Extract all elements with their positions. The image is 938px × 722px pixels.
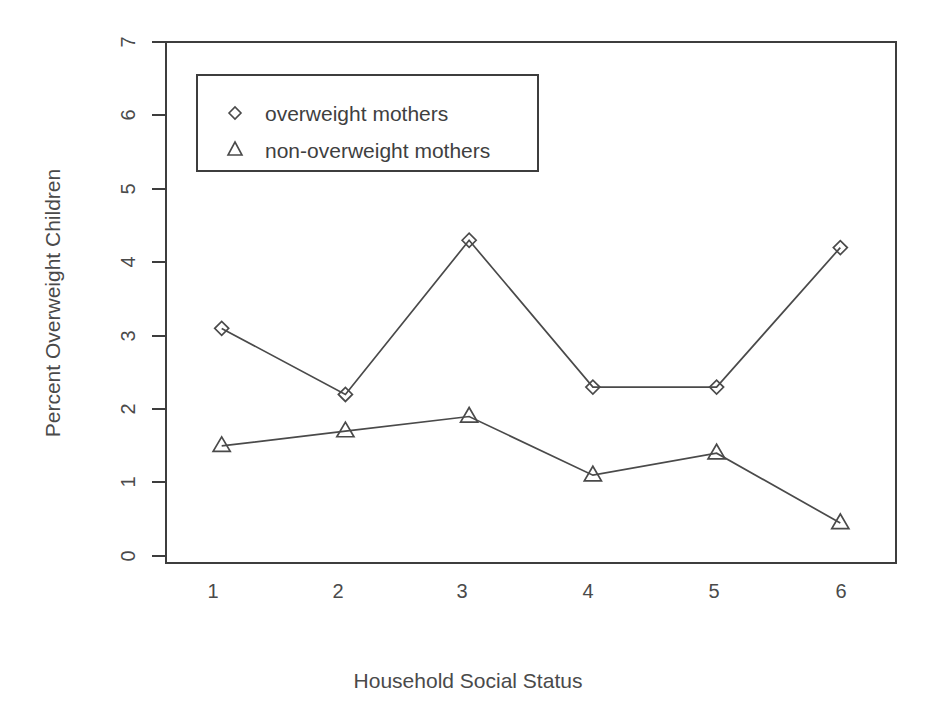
legend-entry-non-overweight-mothers: non-overweight mothers	[228, 139, 490, 162]
chart-figure: 0 1 2 3 4 5 6 7 Percent Overweight Child…	[0, 0, 938, 722]
y-tick-label-6: 6	[117, 109, 139, 120]
legend-label-overweight-mothers: overweight mothers	[265, 102, 448, 125]
y-tick-label-1: 1	[117, 476, 139, 487]
y-tick-label-3: 3	[117, 330, 139, 341]
y-tick-label-0: 0	[117, 550, 139, 561]
series-line-0	[222, 240, 841, 394]
y-tick-labels: 0 1 2 3 4 5 6 7	[117, 36, 139, 561]
y-tick-label-4: 4	[117, 256, 139, 267]
data-point-marker	[213, 437, 230, 452]
y-tick-label-7: 7	[117, 36, 139, 47]
series-non-overweight-mothers	[213, 407, 849, 528]
x-axis-title: Household Social Status	[354, 669, 583, 692]
legend: overweight mothers non-overweight mother…	[197, 75, 538, 171]
y-tick-label-2: 2	[117, 403, 139, 414]
series-overweight-mothers	[215, 233, 848, 401]
y-axis-ticks	[152, 42, 166, 556]
data-point-marker	[337, 422, 354, 437]
x-tick-label-3: 3	[456, 580, 467, 602]
series-line-1	[222, 417, 841, 524]
data-point-marker	[215, 321, 229, 335]
x-tick-label-2: 2	[332, 580, 343, 602]
x-tick-label-1: 1	[207, 580, 218, 602]
data-point-marker	[832, 514, 849, 529]
y-axis-title: Percent Overweight Children	[41, 169, 64, 437]
x-axis: 1 2 3 4 5 6 Household Social Status	[207, 580, 846, 692]
series-layer	[213, 233, 849, 528]
y-tick-label-5: 5	[117, 183, 139, 194]
x-tick-label-5: 5	[708, 580, 719, 602]
x-tick-label-6: 6	[835, 580, 846, 602]
legend-label-non-overweight-mothers: non-overweight mothers	[265, 139, 490, 162]
x-tick-label-4: 4	[582, 580, 593, 602]
line-chart: 0 1 2 3 4 5 6 7 Percent Overweight Child…	[0, 0, 938, 722]
x-tick-labels: 1 2 3 4 5 6	[207, 580, 846, 602]
y-axis: 0 1 2 3 4 5 6 7 Percent Overweight Child…	[41, 36, 167, 563]
